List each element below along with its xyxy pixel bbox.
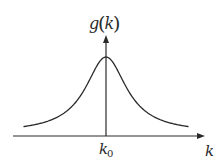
x-tick-label-center: k 0: [99, 140, 113, 159]
y-axis-label: g ( k ): [89, 12, 120, 34]
y-axis-label-close-paren: ): [113, 12, 120, 34]
x-axis-arrowhead: [197, 133, 205, 139]
chart-canvas: g ( k ) k 0 k: [0, 0, 222, 166]
x-axis-label: k: [205, 142, 214, 160]
x-tick-label-subscript: 0: [107, 148, 113, 159]
y-axis-arrowhead: [103, 35, 109, 43]
